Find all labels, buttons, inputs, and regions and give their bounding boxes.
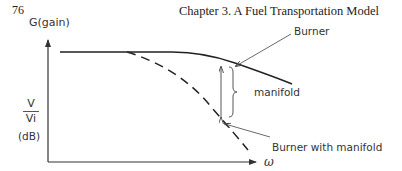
x-axis-label: ω — [264, 155, 274, 169]
burner-label: Burner — [294, 25, 329, 37]
burner-with-manifold-label: Burner with manifold — [272, 141, 382, 153]
manifold-label: manifold — [254, 86, 300, 98]
y-axis-ratio: V Vi — [21, 98, 41, 125]
manifold-brace-icon — [229, 67, 237, 117]
ratio-numerator: V — [21, 98, 41, 110]
y-axis-unit: (dB) — [18, 130, 40, 142]
ratio-denominator: Vi — [21, 113, 41, 125]
burner-curve — [60, 52, 292, 84]
burner-leader-line — [236, 34, 291, 66]
y-axis-label: G(gain) — [29, 16, 70, 29]
burner-with-manifold-leader-line — [225, 124, 270, 137]
